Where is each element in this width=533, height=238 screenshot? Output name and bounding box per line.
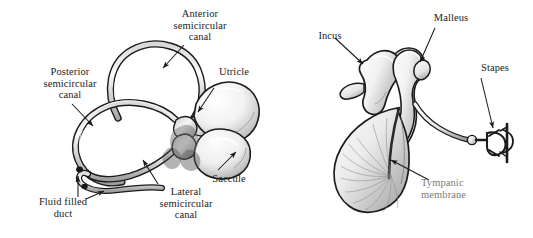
label-incus: Incus bbox=[305, 30, 355, 42]
leader-incus bbox=[335, 38, 363, 64]
label-utricle: Utricle bbox=[205, 66, 263, 78]
incus bbox=[340, 51, 400, 115]
middle-ear-ossicles-illustration bbox=[263, 0, 533, 238]
label-tympanic-membrane: Tympanic membrane bbox=[421, 177, 505, 200]
leader-malleus bbox=[420, 28, 435, 62]
label-stapes: Stapes bbox=[469, 62, 521, 74]
label-anterior-semicircular-canal: Anterior semicircular canal bbox=[150, 8, 250, 43]
vestibular-panel: Anterior semicircular canal Posterior se… bbox=[0, 0, 270, 238]
saccule bbox=[194, 129, 250, 179]
ossicles-panel: Incus Malleus Stapes Tympanic membrane bbox=[263, 0, 533, 238]
incus-long-process bbox=[415, 104, 477, 145]
tympanic-membrane bbox=[334, 108, 409, 212]
label-posterior-semicircular-canal: Posterior semicircular canal bbox=[24, 66, 116, 101]
label-saccule: Saccule bbox=[198, 173, 260, 185]
label-lateral-semicircular-canal: Lateral semicircular canal bbox=[136, 186, 236, 221]
posterior-semicircular-canal bbox=[76, 101, 176, 183]
ear-anatomy-figure: Anterior semicircular canal Posterior se… bbox=[0, 0, 533, 238]
label-fluid-filled-duct: Fluid filled duct bbox=[14, 196, 112, 219]
leader-stapes bbox=[481, 78, 493, 128]
label-malleus: Malleus bbox=[422, 12, 480, 24]
stapes bbox=[476, 124, 513, 162]
vestibule-shading bbox=[162, 125, 200, 171]
